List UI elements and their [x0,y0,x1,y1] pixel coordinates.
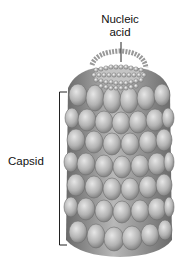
virus-illustration [0,0,191,263]
capsid-label: Capsid [8,155,54,168]
nucleic-acid-label-line1: Nucleic [96,13,144,26]
capsid-body [64,68,174,257]
nucleic-acid-label-line2: acid [96,26,144,39]
nucleic-acid-label: Nucleic acid [96,13,144,39]
